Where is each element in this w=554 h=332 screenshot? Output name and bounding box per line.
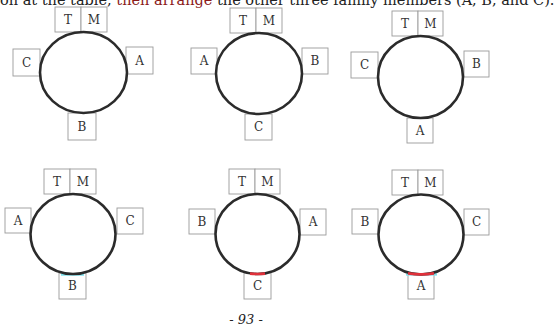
seat-label: M [77,175,89,189]
red-mark [408,273,434,274]
round-table [31,194,116,274]
seat-label: B [311,54,320,68]
seat-label: M [424,176,436,190]
seat-label: C [360,58,369,72]
seat-label: T [239,14,247,28]
seating-diagram-1: T M C A B [13,7,153,140]
round-table [379,195,464,275]
seat-label: M [88,13,100,27]
seat-label: M [424,17,436,31]
seat-label: B [361,215,370,229]
seat-label: C [472,215,481,229]
seat-label: T [401,17,409,31]
seat-label: B [78,120,87,134]
seat-label: A [134,54,144,68]
seat-label: C [22,56,31,70]
seat-label: A [415,124,425,138]
page-number: - 93 - [0,312,492,327]
seat-label: A [416,279,426,293]
seat-label: T [401,176,409,190]
seating-diagram-6: T M B C A [352,170,489,299]
seat-label: A [199,54,209,68]
seat-label: M [263,14,275,28]
seat-label: T [64,13,72,27]
round-table [216,194,300,274]
seat-label: C [254,120,263,134]
seat-label: T [238,175,246,189]
seating-diagram-4: T M A C B [5,169,143,299]
seat-label: B [198,215,207,229]
seating-diagram-3: T M C B A [351,11,489,143]
seat-label: B [472,57,481,71]
seat-label: A [13,214,23,228]
seat-label: B [68,279,77,293]
seat-label: M [261,175,273,189]
seat-label: C [253,279,262,293]
seat-label: C [125,214,134,228]
seat-label: A [308,215,318,229]
seating-diagram-5: T M B A C [189,169,326,299]
seat-label: T [53,175,61,189]
round-table [378,36,463,118]
seating-diagram-2: T M A B C [191,8,328,140]
round-table [216,33,302,114]
round-table [40,32,127,113]
